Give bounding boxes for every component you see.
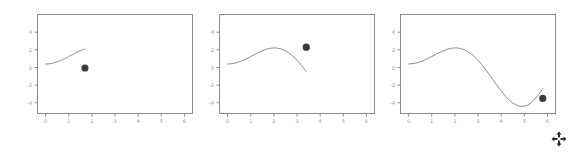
y-tick-labels: 4 2 0 -2 -4 <box>390 29 396 106</box>
x-tick-labels: 0 1 2 3 4 5 6 <box>44 118 186 124</box>
y-tick-label: -4 <box>27 100 33 106</box>
chart-panel-3[interactable]: 4 2 0 -2 -4 0 1 2 <box>363 0 556 154</box>
x-tick-label: 5 <box>523 118 526 124</box>
x-tick-label: 5 <box>342 118 345 124</box>
x-tick-label: 2 <box>90 118 93 124</box>
chart-panel-1-svg: 4 2 0 -2 -4 0 <box>0 0 193 154</box>
axes-frame <box>401 15 556 114</box>
y-tick-label: 0 <box>392 65 395 71</box>
y-tick-label: 2 <box>392 47 395 53</box>
y-tick-label: 2 <box>29 47 32 53</box>
x-tick-label: 5 <box>160 118 163 124</box>
x-tick-label: 3 <box>295 118 298 124</box>
x-tick-label: 0 <box>44 118 47 124</box>
y-tick-label: -2 <box>390 82 395 88</box>
endpoint-marker[interactable] <box>303 44 310 51</box>
y-tick-label: 4 <box>211 29 215 35</box>
x-tick-label: 2 <box>272 118 275 124</box>
x-tick-label: 3 <box>113 118 116 124</box>
figure-canvas: 4 2 0 -2 -4 0 <box>0 0 579 154</box>
x-tick-label: 1 <box>67 118 70 124</box>
x-tick-label: 0 <box>226 118 229 124</box>
x-tick-labels: 0 1 2 3 4 5 6 <box>407 118 549 124</box>
x-tick-label: 4 <box>319 118 323 124</box>
y-tick-label: 4 <box>392 29 396 35</box>
y-tick-labels: 4 2 0 -2 -4 <box>27 29 33 106</box>
x-tick-label: 2 <box>453 118 456 124</box>
x-tick-labels: 0 1 2 3 4 5 6 <box>226 118 368 124</box>
x-tick-label: 4 <box>500 118 504 124</box>
endpoint-marker[interactable] <box>81 64 88 71</box>
y-tick-label: 0 <box>29 65 32 71</box>
move-cursor-icon[interactable] <box>551 131 567 147</box>
panel-row: 4 2 0 -2 -4 0 <box>0 0 579 154</box>
chart-panel-3-svg: 4 2 0 -2 -4 0 1 2 <box>363 0 556 154</box>
y-tick-label: 2 <box>211 47 214 53</box>
y-tick-label: -4 <box>390 100 396 106</box>
x-tick-label: 6 <box>546 118 549 124</box>
y-tick-label: -2 <box>27 82 32 88</box>
y-tick-labels: 4 2 0 -2 -4 <box>209 29 215 106</box>
x-tick-label: 0 <box>407 118 410 124</box>
x-tick-label: 4 <box>137 118 141 124</box>
y-tick-label: 4 <box>29 29 33 35</box>
y-tick-label: -2 <box>209 82 214 88</box>
endpoint-marker[interactable] <box>539 95 546 102</box>
x-tick-label: 1 <box>249 118 252 124</box>
chart-panel-2[interactable]: 4 2 0 -2 -4 0 1 2 <box>182 0 375 154</box>
chart-panel-2-svg: 4 2 0 -2 -4 0 1 2 <box>182 0 375 154</box>
x-tick-label: 1 <box>430 118 433 124</box>
axes-frame <box>220 15 375 114</box>
y-tick-label: 0 <box>211 65 214 71</box>
x-tick-label: 3 <box>476 118 479 124</box>
chart-panel-1[interactable]: 4 2 0 -2 -4 0 <box>0 0 193 154</box>
y-tick-label: -4 <box>209 100 215 106</box>
axes-frame <box>38 15 193 114</box>
